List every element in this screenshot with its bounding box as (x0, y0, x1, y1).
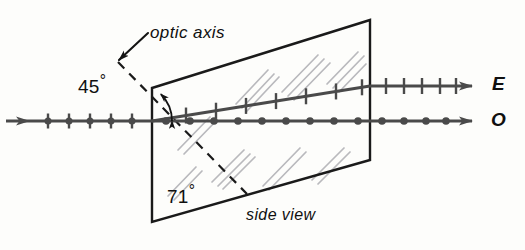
unpolarized-dot (87, 118, 94, 125)
label-ray-e: E (492, 74, 505, 93)
o-ray-dot (422, 117, 430, 125)
unpolarized-dot (45, 118, 52, 125)
degree-symbol-45: ° (100, 72, 107, 89)
optic-axis-dashed-line (118, 62, 247, 194)
ordinary-ray (152, 117, 472, 125)
unpolarized-dot (66, 118, 73, 125)
o-ray-dot (234, 117, 242, 125)
o-ray-dot (330, 117, 338, 125)
angle-45-value: 45 (78, 76, 100, 97)
label-angle-45: 45° (78, 73, 106, 96)
extraordinary-ray (152, 78, 472, 124)
crystal-glint (223, 157, 255, 189)
o-ray-dot (354, 117, 362, 125)
label-ray-o: O (491, 110, 506, 129)
o-ray-dot (400, 117, 408, 125)
unpolarized-dot (108, 118, 115, 125)
crystal-glint (184, 121, 216, 154)
e-ray-inside-crystal (152, 86, 370, 121)
o-ray-dot (186, 117, 194, 125)
o-ray-dot (162, 117, 170, 125)
o-ray-dot (282, 117, 290, 125)
unpolarized-dot (129, 118, 136, 125)
o-ray-dot (306, 117, 314, 125)
o-ray-dot (210, 117, 218, 125)
label-angle-71: 71° (167, 183, 195, 206)
o-ray-dot (378, 117, 386, 125)
label-side-view: side view (246, 207, 315, 223)
incident-ray (6, 114, 152, 129)
diagram-canvas: optic axis side view 45° 71° E O (0, 0, 525, 250)
o-ray-dot (442, 117, 450, 125)
angle-71-value: 71 (167, 186, 189, 207)
degree-symbol-71: ° (189, 182, 196, 199)
o-ray-dot (258, 117, 266, 125)
label-optic-axis: optic axis (150, 24, 225, 41)
leader-arrow-optic-axis (119, 33, 148, 60)
crystal-glint (282, 55, 318, 92)
crystal-glint (236, 70, 268, 104)
